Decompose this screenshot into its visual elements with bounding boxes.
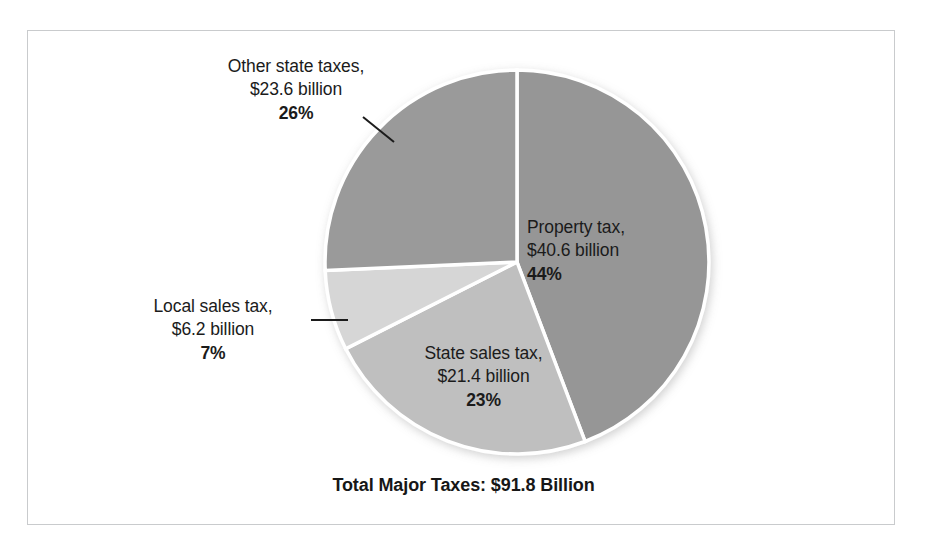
slice-label-state-percent: 23% [386, 389, 581, 412]
slice-label-other-state-taxes: Other state taxes, $23.6 billion 26% [176, 55, 416, 124]
slice-label-local-name: Local sales tax, [118, 295, 308, 318]
slice-label-property-percent: 44% [527, 263, 717, 286]
slice-label-other-name: Other state taxes, [176, 55, 416, 78]
slice-label-local-amount: $6.2 billion [118, 318, 308, 341]
figure-container: Other state taxes, $23.6 billion 26% Pro… [0, 0, 927, 554]
slice-label-local-percent: 7% [118, 342, 308, 365]
slice-label-local-sales-tax: Local sales tax, $6.2 billion 7% [118, 295, 308, 364]
slice-label-property-name: Property tax, [527, 216, 717, 239]
slice-label-property-tax: Property tax, $40.6 billion 44% [527, 216, 717, 285]
pie-chart: Other state taxes, $23.6 billion 26% Pro… [0, 0, 927, 554]
slice-label-other-percent: 26% [176, 102, 416, 125]
slice-label-state-name: State sales tax, [386, 342, 581, 365]
slice-label-property-amount: $40.6 billion [527, 239, 717, 262]
slice-label-other-amount: $23.6 billion [176, 78, 416, 101]
slice-label-state-sales-tax: State sales tax, $21.4 billion 23% [386, 342, 581, 411]
pie-chart-svg [0, 0, 927, 554]
total-major-taxes-caption: Total Major Taxes: $91.8 Billion [0, 475, 927, 496]
slice-label-state-amount: $21.4 billion [386, 365, 581, 388]
